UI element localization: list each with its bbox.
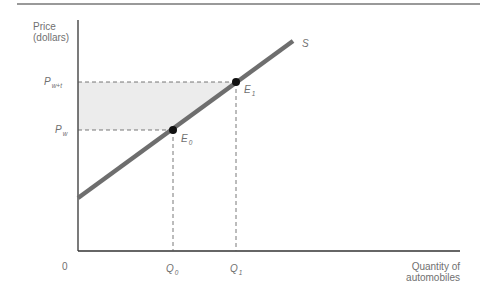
label-pwt: Pw+t: [44, 76, 62, 88]
x-axis-label: Quantity of automobiles: [403, 261, 460, 283]
label-q1: Q1: [230, 263, 242, 275]
label-q0: Q0: [166, 263, 178, 275]
supply-diagram: [0, 0, 488, 296]
label-pw: Pw: [55, 124, 67, 136]
label-e1: E1: [244, 84, 255, 96]
label-e0: E0: [181, 133, 192, 145]
point-e1: [232, 78, 240, 86]
origin-label: 0: [62, 261, 68, 272]
label-s: S: [302, 38, 309, 49]
y-axis-label: Price (dollars): [33, 21, 69, 43]
shaded-area: [78, 82, 236, 130]
point-e0: [169, 126, 177, 134]
